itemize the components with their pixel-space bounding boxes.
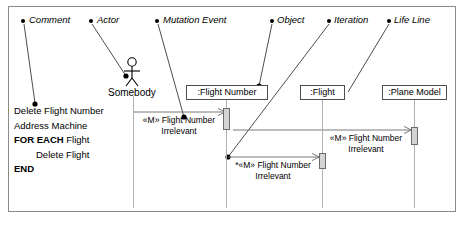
comment-line-3-keyword: FOR EACH <box>14 134 64 145</box>
message-label-2-line1: «M» Flight Number <box>323 133 409 144</box>
message-label-3: *«M» Flight Number Irrelevant <box>227 160 319 182</box>
object-box-flight[interactable]: :Flight <box>300 85 345 100</box>
callout-label-actor: Actor <box>97 15 119 25</box>
actor-name-label: Somebody <box>108 87 156 98</box>
callout-dot-mutation-event <box>155 19 159 23</box>
callout-label-mutation-event: Mutation Event <box>163 15 226 25</box>
callout-dot-actor <box>89 19 93 23</box>
callout-label-iteration: Iteration <box>334 15 368 25</box>
comment-pseudocode-block: Delete Flight Number Address Machine FOR… <box>14 104 184 177</box>
object-box-flight-number[interactable]: :Flight Number <box>186 85 268 100</box>
callout-dot-life-line <box>387 19 391 23</box>
message-label-2-line2: Irrelevant <box>323 144 409 155</box>
activation-bar-flight <box>319 153 326 169</box>
activation-bar-flight-number <box>223 108 230 130</box>
lifeline-plane-model <box>414 100 415 208</box>
comment-line-2: Address Machine <box>14 119 184 134</box>
message-label-2: «M» Flight Number Irrelevant <box>323 133 409 155</box>
object-box-plane-model[interactable]: :Plane Model <box>382 85 447 100</box>
comment-line-3: FOR EACH Flight <box>14 133 184 148</box>
callout-label-life-line: Life Line <box>394 15 430 25</box>
message-label-3-line1: *«M» Flight Number <box>227 160 319 171</box>
callout-dot-iteration <box>327 19 331 23</box>
message-label-3-line2: Irrelevant <box>227 171 319 182</box>
diagram-canvas: Comment Actor Mutation Event Object Iter… <box>0 0 464 233</box>
callout-dot-object <box>270 19 274 23</box>
comment-line-4: Delete Flight <box>14 148 184 163</box>
comment-line-5-keyword: END <box>14 163 34 174</box>
callout-dot-comment <box>21 19 25 23</box>
callout-label-comment: Comment <box>29 15 70 25</box>
callout-label-object: Object <box>277 15 304 25</box>
activation-bar-plane-model <box>411 127 418 145</box>
comment-line-3-text: Flight <box>64 134 90 145</box>
comment-line-5: END <box>14 162 184 177</box>
comment-line-1: Delete Flight Number <box>14 104 184 119</box>
